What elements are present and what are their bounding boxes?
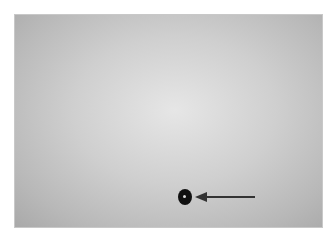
indicated-spot — [178, 189, 192, 205]
arrow-annotation — [205, 196, 255, 198]
clinical-photo — [14, 14, 323, 228]
